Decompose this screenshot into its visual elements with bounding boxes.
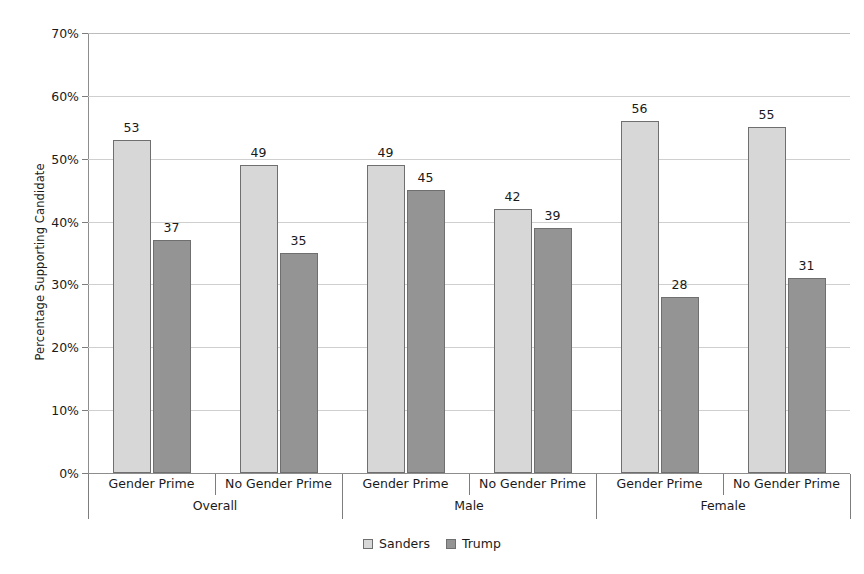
x-axis-category-label: Gender Prime	[109, 476, 195, 491]
gridline	[88, 284, 850, 285]
y-tick-mark	[82, 33, 88, 34]
legend-swatch-icon	[363, 539, 373, 549]
bar-value-label: 55	[759, 107, 775, 122]
category-separator	[723, 474, 724, 495]
bar-value-label: 28	[672, 277, 688, 292]
y-tick-label: 70%	[51, 26, 79, 41]
bar-sanders	[113, 140, 151, 473]
x-axis-group-label: Overall	[193, 498, 238, 513]
y-tick-label: 60%	[51, 88, 79, 103]
y-axis-title: Percentage Supporting Candidate	[33, 112, 47, 412]
category-axis-edge	[850, 474, 851, 519]
bar-value-label: 35	[291, 233, 307, 248]
y-tick-label: 50%	[51, 151, 79, 166]
y-tick-mark	[82, 159, 88, 160]
plot-area: 0%10%20%30%40%50%60%70%53374935494542395…	[88, 33, 850, 474]
category-axis-edge	[88, 474, 89, 519]
bar-trump	[153, 240, 191, 473]
bar-sanders	[748, 127, 786, 473]
gridline	[88, 33, 850, 34]
bar-value-label: 39	[545, 208, 561, 223]
x-axis-category-label: No Gender Prime	[479, 476, 586, 491]
y-tick-mark	[82, 96, 88, 97]
x-axis-category-label: No Gender Prime	[733, 476, 840, 491]
bar-trump	[661, 297, 699, 473]
bar-trump	[280, 253, 318, 473]
x-axis-category-label: Gender Prime	[363, 476, 449, 491]
y-tick-mark	[82, 347, 88, 348]
gridline	[88, 347, 850, 348]
y-tick-label: 10%	[51, 403, 79, 418]
bar-trump	[788, 278, 826, 473]
x-axis-group-label: Male	[454, 498, 484, 513]
x-axis-category-label: Gender Prime	[617, 476, 703, 491]
bar-value-label: 49	[251, 145, 267, 160]
category-separator	[215, 474, 216, 495]
legend-label: Sanders	[379, 536, 430, 551]
bar-value-label: 31	[799, 258, 815, 273]
bar-value-label: 45	[418, 170, 434, 185]
legend-label: Trump	[462, 536, 501, 551]
legend-item-sanders[interactable]: Sanders	[363, 536, 430, 551]
group-separator	[342, 474, 343, 519]
bar-sanders	[494, 209, 532, 473]
y-tick-mark	[82, 222, 88, 223]
bar-value-label: 42	[505, 189, 521, 204]
bar-trump	[407, 190, 445, 473]
y-tick-label: 30%	[51, 277, 79, 292]
bar-sanders	[621, 121, 659, 473]
bar-value-label: 37	[164, 220, 180, 235]
bar-value-label: 53	[124, 120, 140, 135]
bar-value-label: 49	[378, 145, 394, 160]
y-tick-label: 20%	[51, 340, 79, 355]
category-separator	[469, 474, 470, 495]
y-axis-line	[88, 33, 89, 474]
gridline	[88, 159, 850, 160]
bar-trump	[534, 228, 572, 473]
gridline	[88, 410, 850, 411]
category-axis: Gender PrimeNo Gender PrimeGender PrimeN…	[88, 474, 850, 522]
legend-item-trump[interactable]: Trump	[446, 536, 501, 551]
bar-sanders	[367, 165, 405, 473]
y-tick-mark	[82, 410, 88, 411]
gridline	[88, 96, 850, 97]
x-axis-category-label: No Gender Prime	[225, 476, 332, 491]
x-axis-group-label: Female	[700, 498, 745, 513]
bar-chart: Percentage Supporting Candidate 0%10%20%…	[0, 0, 864, 574]
y-tick-label: 0%	[59, 466, 79, 481]
bar-sanders	[240, 165, 278, 473]
gridline	[88, 222, 850, 223]
y-tick-mark	[82, 284, 88, 285]
y-tick-label: 40%	[51, 214, 79, 229]
group-separator	[596, 474, 597, 519]
chart-legend: SandersTrump	[0, 536, 864, 551]
legend-swatch-icon	[446, 539, 456, 549]
bar-value-label: 56	[632, 101, 648, 116]
